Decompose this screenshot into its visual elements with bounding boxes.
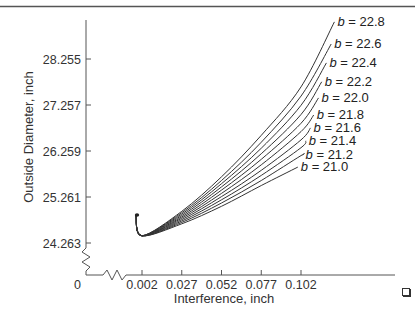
x-ticks: 0.0020.0270.0520.0770.102 xyxy=(126,270,316,292)
x-axis-title: Interference, inch xyxy=(174,291,274,306)
series-curve xyxy=(136,63,326,236)
y-tick-label: 26.259 xyxy=(43,145,81,159)
x-tick-label: 0.052 xyxy=(206,278,237,292)
chart: 24.26325.26126.25927.25728.255 0.0020.02… xyxy=(0,0,415,320)
y-tick-label: 27.257 xyxy=(43,99,81,113)
series-curve xyxy=(136,115,314,236)
series-label: b = 22.4 xyxy=(329,55,376,70)
series-label: b = 22.8 xyxy=(337,14,384,29)
series-label: b = 22.0 xyxy=(321,90,368,105)
end-of-figure-box xyxy=(402,288,410,296)
series-curve xyxy=(136,22,334,236)
origin-marker xyxy=(135,213,139,217)
series-curve xyxy=(136,44,331,236)
y-axis xyxy=(82,20,90,275)
series-label: b = 21.0 xyxy=(301,159,348,174)
series-curves xyxy=(136,22,334,236)
y-tick-label: 24.263 xyxy=(43,237,81,251)
origin-label: 0 xyxy=(74,278,81,292)
x-tick-label: 0.027 xyxy=(166,278,197,292)
series-curve xyxy=(136,141,306,236)
y-tick-label: 28.255 xyxy=(43,53,81,67)
x-tick-label: 0.002 xyxy=(126,278,157,292)
series-label: b = 22.6 xyxy=(334,36,381,51)
x-tick-label: 0.102 xyxy=(285,278,316,292)
y-tick-label: 25.261 xyxy=(43,191,81,205)
x-tick-label: 0.077 xyxy=(246,278,277,292)
y-axis-title: Outside Diameter, inch xyxy=(21,71,36,203)
series-label: b = 22.2 xyxy=(325,74,372,89)
series-curve xyxy=(136,167,298,236)
series-labels: b = 22.8b = 22.6b = 22.4b = 22.2b = 22.0… xyxy=(301,14,385,174)
series-curve xyxy=(136,98,319,236)
y-ticks: 24.26325.26126.25927.25728.255 xyxy=(43,53,91,251)
series-label: b = 21.4 xyxy=(309,133,356,148)
